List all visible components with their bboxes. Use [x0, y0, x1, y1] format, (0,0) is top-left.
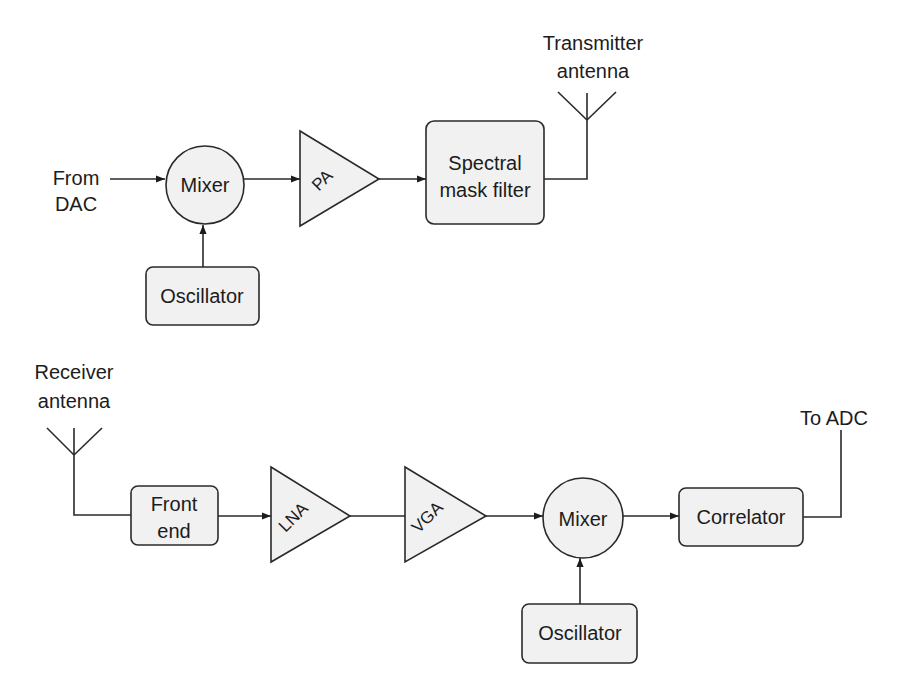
spectral-mask-filter: Spectral mask filter [426, 121, 544, 224]
power-amplifier: PA [300, 131, 379, 226]
low-noise-amplifier: LNA [271, 467, 350, 562]
wire-correlator-to-adc [803, 430, 841, 517]
receiver-antenna-label: Receiver antenna [35, 361, 114, 412]
to-adc-label: To ADC [800, 407, 868, 429]
from-dac-label-line2: DAC [55, 193, 97, 215]
tx-antenna-label-line1: Transmitter [543, 32, 644, 54]
tx-antenna-right-arm [587, 92, 616, 120]
rx-antenna-right-arm [74, 428, 102, 455]
rx-antenna-label-line2: antenna [38, 390, 111, 412]
tx-oscillator: Oscillator [146, 267, 259, 325]
tx-mixer: Mixer [166, 146, 244, 224]
tx-antenna-label-line2: antenna [557, 60, 630, 82]
filter-label-line1: Spectral [448, 152, 521, 174]
front-end-label-line1: Front [151, 493, 198, 515]
transmitter-chain: From DAC Mixer Oscillator PA Spect [53, 32, 644, 325]
rx-oscillator: Oscillator [522, 604, 637, 663]
transmitter-antenna-label: Transmitter antenna [543, 32, 644, 82]
rf-block-diagram: From DAC Mixer Oscillator PA Spect [0, 0, 914, 677]
receiver-chain: Receiver antenna Front end LNA VGA [35, 361, 868, 663]
tx-oscillator-label: Oscillator [160, 285, 244, 307]
rx-antenna-label-line1: Receiver [35, 361, 114, 383]
from-dac-label-line1: From [53, 167, 100, 189]
filter-label-line2: mask filter [439, 179, 530, 201]
wire-rx-antenna-to-front-end [74, 428, 131, 515]
rx-mixer: Mixer [543, 478, 623, 558]
rx-oscillator-label: Oscillator [538, 622, 622, 644]
front-end-label-line2: end [157, 520, 190, 542]
from-dac-label: From DAC [53, 167, 100, 215]
rx-mixer-label: Mixer [559, 508, 608, 530]
tx-antenna-left-arm [558, 92, 587, 120]
correlator-label: Correlator [697, 506, 786, 528]
rx-antenna-left-arm [47, 428, 74, 455]
variable-gain-amplifier: VGA [405, 467, 486, 562]
wire-filter-to-tx-antenna [544, 93, 587, 179]
tx-mixer-label: Mixer [181, 174, 230, 196]
correlator: Correlator [679, 488, 803, 546]
front-end: Front end [131, 486, 218, 545]
